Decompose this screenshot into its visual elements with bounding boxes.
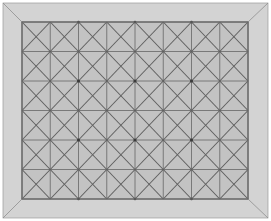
mesh-node-r2-c2 xyxy=(77,79,80,82)
mesh-canvas xyxy=(0,0,271,221)
mesh-viewport xyxy=(0,0,271,221)
mesh-node-r4-c2 xyxy=(77,138,80,141)
mesh-node-r2-c6 xyxy=(190,79,193,82)
panel-group xyxy=(22,21,248,201)
mesh-node-r4-c4 xyxy=(133,138,136,141)
mesh-node-r4-c6 xyxy=(190,138,193,141)
mesh-node-r2-c4 xyxy=(133,79,136,82)
